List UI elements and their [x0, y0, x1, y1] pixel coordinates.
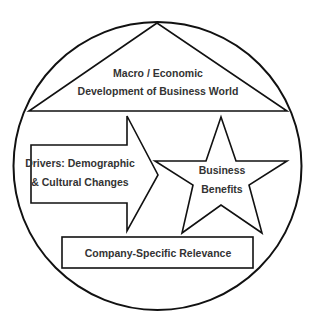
drivers-arrow [31, 116, 158, 231]
business-diagram: Macro / Economic Development of Business… [0, 0, 315, 325]
macro-label-line2: Development of Business World [78, 85, 239, 97]
relevance-label: Company-Specific Relevance [85, 247, 232, 259]
macro-label-line1: Macro / Economic [113, 67, 203, 79]
drivers-label-line2: & Cultural Changes [31, 176, 129, 188]
benefits-label-line1: Business [199, 164, 246, 176]
benefits-label-line2: Benefits [201, 183, 243, 195]
drivers-label-line1: Drivers: Demographic [25, 157, 135, 169]
